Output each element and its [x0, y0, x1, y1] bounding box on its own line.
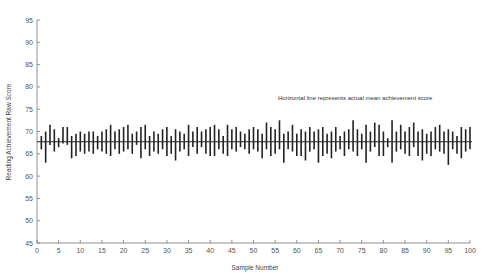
x-tick-label: 50 — [250, 247, 258, 254]
annotation-text: Horizontal line represents actual mean a… — [278, 95, 433, 101]
y-tick-label: 55 — [25, 195, 33, 202]
x-tick-label: 55 — [271, 247, 279, 254]
y-tick-label: 90 — [25, 39, 33, 46]
interval-bars — [41, 120, 470, 165]
x-tick-label: 75 — [358, 247, 366, 254]
y-tick-label: 85 — [25, 61, 33, 68]
x-tick-label: 30 — [163, 247, 171, 254]
x-axis: 0510152025303540455055606570758085909510… — [35, 240, 476, 254]
x-tick-label: 35 — [185, 247, 193, 254]
y-tick-label: 75 — [25, 106, 33, 113]
x-tick-label: 25 — [141, 247, 149, 254]
y-axis-label: Reading Achievement Raw Score — [5, 83, 13, 180]
x-tick-label: 90 — [423, 247, 431, 254]
x-tick-label: 80 — [380, 247, 388, 254]
y-tick-label: 70 — [25, 128, 33, 135]
x-tick-label: 5 — [57, 247, 61, 254]
x-tick-label: 40 — [206, 247, 214, 254]
x-tick-label: 70 — [336, 247, 344, 254]
x-tick-label: 15 — [98, 247, 106, 254]
x-axis-label: Sample Number — [232, 264, 280, 272]
y-tick-label: 60 — [25, 173, 33, 180]
y-tick-label: 80 — [25, 83, 33, 90]
y-tick-label: 45 — [25, 240, 33, 247]
y-axis: 4550556065707580859095 — [25, 17, 40, 247]
x-tick-label: 100 — [464, 247, 476, 254]
x-tick-label: 60 — [293, 247, 301, 254]
y-tick-label: 65 — [25, 150, 33, 157]
x-tick-label: 10 — [76, 247, 84, 254]
x-tick-label: 65 — [315, 247, 323, 254]
y-tick-label: 95 — [25, 17, 33, 24]
x-tick-label: 95 — [444, 247, 452, 254]
x-tick-label: 45 — [228, 247, 236, 254]
interval-chart: 4550556065707580859095 05101520253035404… — [0, 0, 491, 277]
y-tick-label: 50 — [25, 217, 33, 224]
x-tick-label: 0 — [35, 247, 39, 254]
x-tick-label: 85 — [401, 247, 409, 254]
x-tick-label: 20 — [120, 247, 128, 254]
